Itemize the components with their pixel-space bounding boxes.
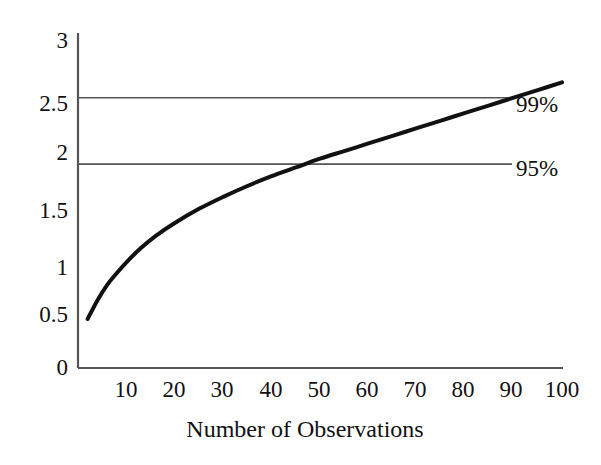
y-tick-label-1-5: 1.5 [39, 198, 68, 223]
x-tick-label-40: 40 [260, 377, 283, 402]
x-tick-label-30: 30 [211, 377, 234, 402]
y-tick-label-0: 0 [57, 355, 69, 380]
x-tick-label-20: 20 [163, 377, 186, 402]
x-tick-label-10: 10 [115, 377, 138, 402]
data-curve [88, 82, 562, 319]
x-axis-title: Number of Observations [186, 416, 423, 442]
x-tick-label-100: 100 [545, 377, 580, 402]
y-tick-label-0-5: 0.5 [39, 302, 68, 327]
y-tick-label-1: 1 [57, 255, 69, 280]
x-tick-label-90: 90 [500, 377, 523, 402]
chart-canvas: 3 2.5 2 1.5 1 0.5 0 10 20 30 40 50 60 70… [0, 0, 601, 465]
x-tick-label-60: 60 [356, 377, 379, 402]
y-tick-label-3: 3 [57, 28, 69, 53]
x-tick-label-50: 50 [308, 377, 331, 402]
chart-container: 3 2.5 2 1.5 1 0.5 0 10 20 30 40 50 60 70… [0, 0, 601, 465]
x-tick-label-70: 70 [404, 377, 427, 402]
y-tick-label-2: 2 [57, 140, 69, 165]
annotation-label-95: 95% [516, 156, 558, 181]
annotation-label-99: 99% [516, 92, 558, 117]
y-tick-label-2-5: 2.5 [39, 91, 68, 116]
x-tick-label-80: 80 [452, 377, 475, 402]
